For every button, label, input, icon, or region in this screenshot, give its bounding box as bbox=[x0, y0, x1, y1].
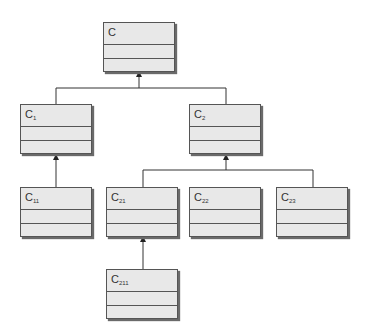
attributes-compartment bbox=[104, 45, 174, 59]
class-box-c1[interactable]: C1 bbox=[20, 104, 92, 154]
attributes-compartment bbox=[277, 210, 347, 224]
class-name: C1 bbox=[21, 105, 91, 127]
class-name: C2 bbox=[190, 105, 260, 127]
class-name: C211 bbox=[107, 270, 177, 292]
class-hierarchy-diagram: C C1 C2 C11 C21 C22 C23 C211 bbox=[0, 0, 369, 335]
operations-compartment bbox=[277, 224, 347, 236]
attributes-compartment bbox=[21, 127, 91, 141]
operations-compartment bbox=[107, 306, 177, 318]
attributes-compartment bbox=[107, 210, 177, 224]
class-name: C bbox=[104, 23, 174, 45]
class-name: C22 bbox=[190, 188, 260, 210]
attributes-compartment bbox=[190, 210, 260, 224]
class-name: C21 bbox=[107, 188, 177, 210]
class-box-c23[interactable]: C23 bbox=[276, 187, 348, 237]
attributes-compartment bbox=[21, 210, 91, 224]
operations-compartment bbox=[104, 59, 174, 71]
class-box-c211[interactable]: C211 bbox=[106, 269, 178, 319]
class-box-c22[interactable]: C22 bbox=[189, 187, 261, 237]
attributes-compartment bbox=[107, 292, 177, 306]
operations-compartment bbox=[21, 224, 91, 236]
operations-compartment bbox=[190, 224, 260, 236]
attributes-compartment bbox=[190, 127, 260, 141]
class-box-c2[interactable]: C2 bbox=[189, 104, 261, 154]
class-box-c[interactable]: C bbox=[103, 22, 175, 72]
class-name: C11 bbox=[21, 188, 91, 210]
inheritance-connectors bbox=[0, 0, 369, 335]
class-box-c11[interactable]: C11 bbox=[20, 187, 92, 237]
class-box-c21[interactable]: C21 bbox=[106, 187, 178, 237]
operations-compartment bbox=[21, 141, 91, 153]
operations-compartment bbox=[107, 224, 177, 236]
operations-compartment bbox=[190, 141, 260, 153]
class-name: C23 bbox=[277, 188, 347, 210]
